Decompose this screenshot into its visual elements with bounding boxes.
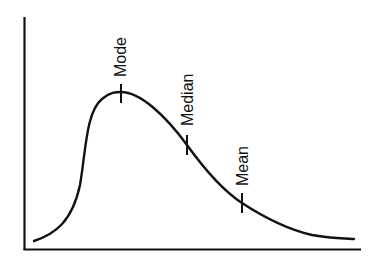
mean-label: Mean — [234, 146, 252, 186]
median-label: Median — [179, 74, 197, 126]
skewed-distribution-diagram: Mode Median Mean — [0, 0, 385, 268]
distribution-plot — [0, 0, 385, 268]
mode-label: Mode — [112, 37, 130, 77]
